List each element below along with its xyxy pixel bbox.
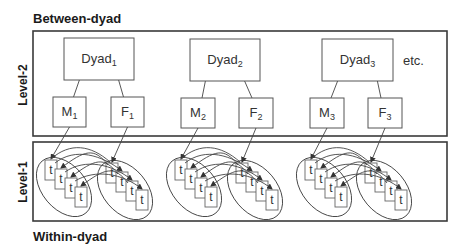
member-to-time-arrow — [371, 128, 385, 162]
dyad-member-link — [331, 81, 338, 98]
dyad-group-2: Dyad2M2ttttF2tttt — [155, 39, 293, 230]
etc-label: etc. — [403, 53, 424, 68]
dyad-label-3: Dyad3 — [340, 52, 375, 69]
member-to-time-arrow — [311, 128, 327, 159]
dyad-member-link — [245, 81, 252, 98]
level-1-label: Level-1 — [16, 161, 30, 203]
dyad-member-link — [119, 80, 124, 97]
multilevel-dyad-diagram: Between-dyad Within-dyad Level-2 Level-1… — [0, 0, 467, 248]
member-to-time-arrow — [242, 128, 256, 162]
dyads-layer: Dyad1M1ttttF1ttttDyad2M2ttttF2ttttDyad3M… — [25, 38, 422, 230]
member-to-time-arrow — [112, 127, 128, 162]
dyad-member-link — [74, 80, 80, 97]
member-to-time-arrow — [181, 128, 198, 159]
level-2-label: Level-2 — [16, 64, 30, 106]
dyad-label-2: Dyad2 — [207, 52, 242, 69]
dyad-member-link — [377, 81, 381, 98]
dyad-member-link — [202, 81, 205, 98]
member-to-time-arrow — [51, 127, 70, 159]
within-dyad-title: Within-dyad — [33, 229, 107, 244]
dyad-group-1: Dyad1M1ttttF1tttt — [25, 38, 163, 230]
dyad-label-1: Dyad1 — [81, 51, 116, 68]
between-dyad-title: Between-dyad — [33, 11, 121, 26]
